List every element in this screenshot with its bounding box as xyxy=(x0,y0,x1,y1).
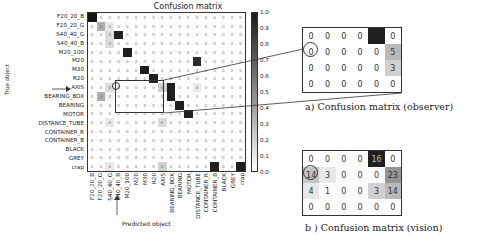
inset-cell: 3 xyxy=(368,183,384,199)
inset-cell: 0 xyxy=(368,167,384,183)
inset-cell: 0 xyxy=(303,76,319,92)
inset-matrix-observer: 00000000005000003000000 xyxy=(302,27,402,93)
inset-cell: 0 xyxy=(352,44,368,60)
inset-cell: 0 xyxy=(352,60,368,76)
inset-cell: 0 xyxy=(352,183,368,199)
inset-cell: 0 xyxy=(368,76,384,92)
inset-cell: 0 xyxy=(303,60,319,76)
inset-cell: 0 xyxy=(352,76,368,92)
inset-cell: 0 xyxy=(385,151,401,167)
inset-cell: 0 xyxy=(319,76,335,92)
inset-cell: 0 xyxy=(319,44,335,60)
inset-cell: 0 xyxy=(352,151,368,167)
inset-cell: 0 xyxy=(352,28,368,44)
inset-cell: 0 xyxy=(336,76,352,92)
inset-cell: 0 xyxy=(303,199,319,215)
inset-cell: 0 xyxy=(336,199,352,215)
inset-cell: 0 xyxy=(385,28,401,44)
inset-cell: 0 xyxy=(352,199,368,215)
inset-cell: 1 xyxy=(319,183,335,199)
inset-cell: 0 xyxy=(336,60,352,76)
inset-cell: 0 xyxy=(336,44,352,60)
highlight-circle-vision xyxy=(303,165,318,180)
inset-cell: 0 xyxy=(336,167,352,183)
inset-matrix-vision: 0000160143000234100314000000 xyxy=(302,150,402,216)
arrow-icon-predicted xyxy=(114,195,120,215)
inset-cell: 0 xyxy=(336,28,352,44)
inset-cell: 16 xyxy=(368,151,384,167)
inset-cell: 0 xyxy=(319,60,335,76)
inset-cell: 0 xyxy=(319,199,335,215)
inset-cell: 5 xyxy=(385,44,401,60)
connector-lines xyxy=(0,0,482,237)
inset-cell: 14 xyxy=(385,183,401,199)
caption-vision: b ) Confusion matrix (vision) xyxy=(305,222,442,233)
inset-cell: 0 xyxy=(385,199,401,215)
inset-cell: 0 xyxy=(352,167,368,183)
inset-cell: 23 xyxy=(385,167,401,183)
inset-cell xyxy=(368,28,384,44)
arrow-icon-axis xyxy=(52,86,71,92)
inset-cell: 0 xyxy=(368,60,384,76)
highlight-circle-observer xyxy=(303,42,318,57)
caption-observer: a) Confusion matrix (observer) xyxy=(305,101,453,112)
inset-cell: 0 xyxy=(319,151,335,167)
inset-cell: 0 xyxy=(385,76,401,92)
inset-cell: 0 xyxy=(319,28,335,44)
inset-cell: 3 xyxy=(385,60,401,76)
inset-cell: 4 xyxy=(303,183,319,199)
inset-cell: 0 xyxy=(336,151,352,167)
inset-cell: 3 xyxy=(319,167,335,183)
inset-cell: 0 xyxy=(368,44,384,60)
inset-cell: 0 xyxy=(368,199,384,215)
inset-cell: 0 xyxy=(336,183,352,199)
